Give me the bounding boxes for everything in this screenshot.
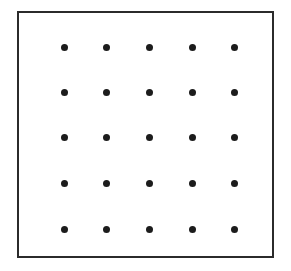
grid-dot [231, 226, 238, 233]
grid-dot [146, 44, 153, 51]
grid-dot [61, 89, 68, 96]
grid-dot [231, 89, 238, 96]
grid-dot [189, 226, 196, 233]
figure-root [0, 0, 291, 271]
grid-dot [61, 180, 68, 187]
grid-dot [231, 180, 238, 187]
grid-dot [231, 44, 238, 51]
grid-dot [61, 44, 68, 51]
grid-dot [189, 44, 196, 51]
grid-dot [103, 44, 110, 51]
grid-frame-border [17, 11, 274, 258]
grid-dot [189, 89, 196, 96]
grid-dot [189, 134, 196, 141]
dot-grid-layer [19, 13, 272, 256]
grid-dot [103, 89, 110, 96]
grid-dot [146, 180, 153, 187]
grid-dot [146, 226, 153, 233]
grid-dot [189, 180, 196, 187]
grid-dot [103, 226, 110, 233]
grid-dot [103, 134, 110, 141]
grid-dot [103, 180, 110, 187]
grid-dot [61, 134, 68, 141]
grid-dot [231, 134, 238, 141]
grid-dot [146, 134, 153, 141]
grid-dot [146, 89, 153, 96]
grid-dot [61, 226, 68, 233]
